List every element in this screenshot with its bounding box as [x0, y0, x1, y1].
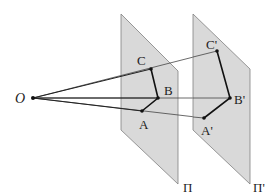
point-b-prime: [228, 96, 232, 100]
label-b-prime: B': [234, 92, 245, 107]
label-plane-pi-prime: Π': [253, 180, 265, 195]
label-c: C: [137, 53, 146, 68]
point-a-prime: [202, 116, 206, 120]
label-c-prime: C': [206, 37, 217, 52]
plane-pi: [121, 14, 178, 184]
label-b: B: [164, 83, 173, 98]
label-o: O: [15, 91, 25, 106]
point-o: [31, 96, 35, 100]
label-a-prime: A': [201, 123, 213, 138]
point-c: [149, 67, 153, 71]
label-plane-pi: Π: [183, 180, 192, 195]
point-b: [156, 96, 160, 100]
label-a: A: [139, 117, 149, 132]
central-projection-diagram: O C B A C' B' A' Π Π': [0, 0, 280, 195]
point-a: [140, 109, 144, 113]
